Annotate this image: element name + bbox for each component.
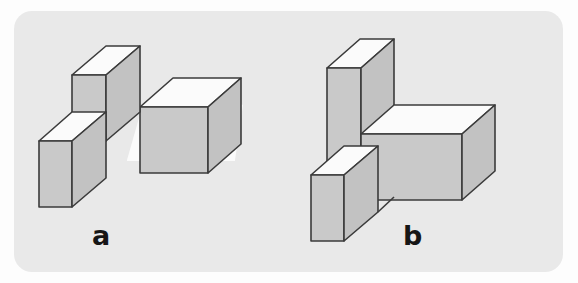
figure-a-blocks [39,46,243,207]
figure-canvas: for a cube 2b) 3 to 4 6 given [0,0,578,283]
figure-a-label: a [92,222,110,249]
figure-b-label: b [403,222,422,249]
figure-b-lower-cube [311,146,378,241]
figure-a-lower-cube-front-face [39,141,72,207]
figure-b-right-bar [361,105,495,200]
block-figures-svg [0,0,578,283]
figure-a-right-bar-front-face [140,107,208,173]
figure-a-lower-cube [39,112,106,207]
figure-a-right-bar [127,78,243,173]
figure-b-blocks [311,39,495,241]
figure-b-lower-cube-front-face [311,175,344,241]
